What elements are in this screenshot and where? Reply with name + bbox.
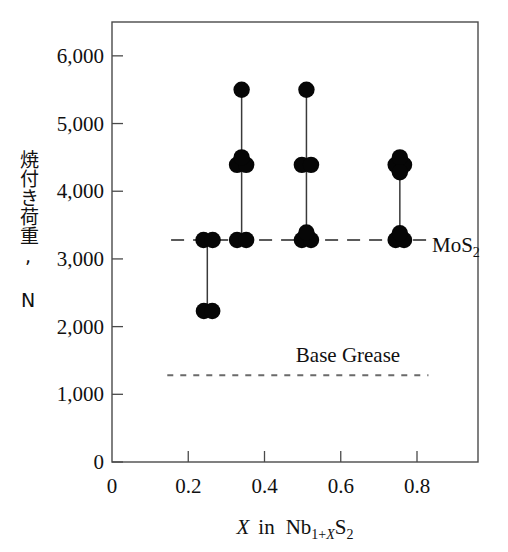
x-tick-label: 0.6 <box>328 474 354 498</box>
series-connectors <box>207 90 400 311</box>
y-tick-label: 5,000 <box>57 112 104 136</box>
data-point <box>238 232 254 248</box>
x-axis-ticks <box>188 451 417 462</box>
data-point <box>298 81 314 97</box>
data-point <box>233 81 249 97</box>
x-axis-title: XinNb1+XS2 <box>236 515 354 542</box>
mos2-ref-label: MoS2 <box>432 233 480 260</box>
x-tick-label: 0.8 <box>404 474 430 498</box>
x-axis-tick-labels: 00.20.40.60.8 <box>107 474 430 498</box>
y-tick-label: 3,000 <box>57 247 104 271</box>
data-point <box>298 224 314 240</box>
base-grease-ref-label: Base Grease <box>296 343 400 367</box>
y-tick-label: 0 <box>94 450 105 474</box>
y-axis-ticks <box>112 56 123 462</box>
data-point <box>303 157 319 173</box>
y-tick-label: 6,000 <box>57 44 104 68</box>
data-point <box>204 232 220 248</box>
y-axis-tick-labels: 01,0002,0003,0004,0005,0006,000 <box>57 44 104 474</box>
data-point <box>233 149 249 165</box>
x-tick-label: 0 <box>107 474 118 498</box>
x-tick-label: 0.4 <box>251 474 278 498</box>
chart-figure: 焼付き荷重, N 01,0002,0003,0004,0005,0006,000… <box>0 0 508 552</box>
chart-canvas: 01,0002,0003,0004,0005,0006,000 00.20.40… <box>0 0 508 552</box>
data-point <box>204 303 220 319</box>
y-tick-label: 4,000 <box>57 179 104 203</box>
data-point <box>392 149 408 165</box>
y-tick-label: 2,000 <box>57 315 104 339</box>
y-tick-label: 1,000 <box>57 382 104 406</box>
x-tick-label: 0.2 <box>175 474 201 498</box>
y-axis-title: 焼付き荷重, N <box>4 150 38 311</box>
data-point-markers <box>195 81 412 319</box>
data-point <box>392 164 408 180</box>
data-point <box>392 225 408 241</box>
